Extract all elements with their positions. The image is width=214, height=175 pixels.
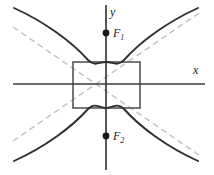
y-axis-label: y [110,6,115,18]
focus-lower-label-subscript: 2 [120,136,124,145]
hyperbola-diagram-svg [0,0,214,175]
hyperbola-figure: y x F1 F2 [0,0,214,175]
focus-lower-label: F2 [113,130,124,145]
x-axis-label: x [193,64,198,76]
focus-lower-dot [103,133,110,140]
focus-upper-dot [103,30,110,37]
focus-upper-label: F1 [113,27,124,42]
x-axis-label-text: x [193,63,198,77]
y-axis-label-text: y [110,5,115,19]
focus-upper-label-subscript: 1 [120,33,124,42]
